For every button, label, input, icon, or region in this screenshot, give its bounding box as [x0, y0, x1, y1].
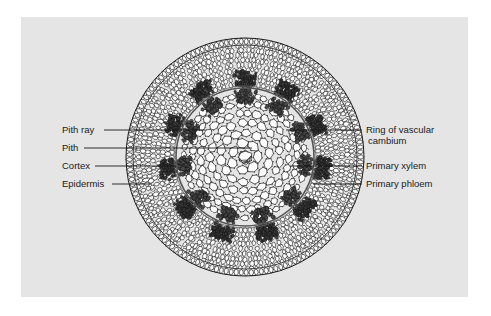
label-pith-ray: Pith ray — [62, 124, 94, 135]
label-epidermis: Epidermis — [62, 178, 104, 189]
stem-cross-section-diagram: Pith rayPithCortexEpidermisRing of vascu… — [0, 0, 491, 316]
label-ring-of-vascular-cambium-line2: cambium — [368, 135, 407, 146]
label-primary-xylem: Primary xylem — [366, 160, 426, 171]
figure-page: Pith rayPithCortexEpidermisRing of vascu… — [0, 0, 491, 316]
label-ring-of-vascular-cambium: Ring of vascular — [366, 124, 434, 135]
label-primary-phloem: Primary phloem — [366, 178, 433, 189]
label-cortex: Cortex — [62, 160, 90, 171]
label-pith: Pith — [62, 142, 78, 153]
